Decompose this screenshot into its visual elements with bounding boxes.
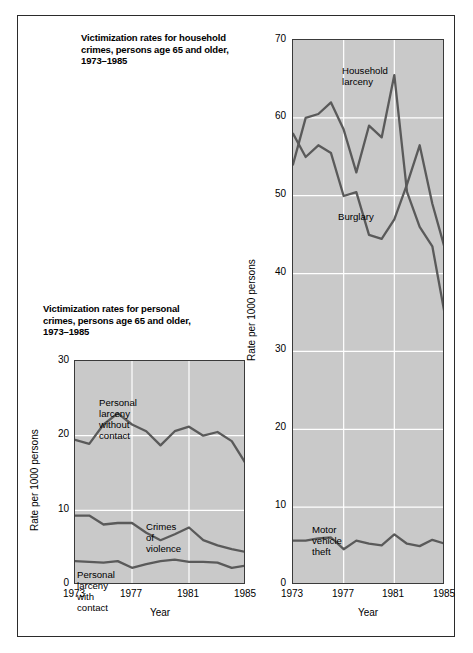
burglary-label: Burglary <box>338 211 374 222</box>
household-ytick-30: 30 <box>262 343 286 354</box>
household-chart-title: Victimization rates for household crimes… <box>81 32 271 67</box>
personal-ytick-10: 10 <box>45 503 69 514</box>
crimes-of-violence-label: Crimes of violence <box>146 521 181 554</box>
household-ytick-0: 0 <box>262 577 286 588</box>
series-burglary <box>293 134 444 249</box>
household-ytick-40: 40 <box>262 266 286 277</box>
personal-ytick-20: 20 <box>45 428 69 439</box>
household-yaxis-label: Rate per 1000 persons <box>246 259 257 361</box>
personal-xtick-1985: 1985 <box>225 588 265 599</box>
figure-frame: Victimization rates for household crimes… <box>17 15 455 637</box>
personal-chart-title: Victimization rates for personal crimes,… <box>43 303 243 338</box>
personal-xaxis-label: Year <box>120 607 200 618</box>
household-ytick-10: 10 <box>262 499 286 510</box>
household-ytick-70: 70 <box>262 33 286 44</box>
household-ytick-50: 50 <box>262 188 286 199</box>
household-gridlines <box>293 40 444 584</box>
household-xtick-1981: 1981 <box>373 588 413 599</box>
household-xtick-1985: 1985 <box>424 588 464 599</box>
personal-xtick-1977: 1977 <box>111 588 151 599</box>
personal-xtick-1973: 1973 <box>54 588 94 599</box>
household-plot-svg <box>293 40 444 584</box>
personal-yaxis-label: Rate per 1000 persons <box>29 429 40 531</box>
personal-ytick-30: 30 <box>45 354 69 365</box>
household-ytick-60: 60 <box>262 110 286 121</box>
household-ytick-20: 20 <box>262 421 286 432</box>
series-personal-larceny-with-contact <box>75 560 245 568</box>
household-xaxis-label: Year <box>328 607 408 618</box>
personal-ytick-0: 0 <box>45 577 69 588</box>
household-larceny-label: Household larceny <box>342 65 388 87</box>
household-xtick-1977: 1977 <box>323 588 363 599</box>
personal-xtick-1981: 1981 <box>168 588 208 599</box>
motor-vehicle-theft-label: Motor vehicle theft <box>312 524 342 557</box>
household-plot-area <box>292 39 444 584</box>
household-xtick-1973: 1973 <box>272 588 312 599</box>
personal-larceny-without-contact-label: Personal larceny without contact <box>99 397 137 441</box>
